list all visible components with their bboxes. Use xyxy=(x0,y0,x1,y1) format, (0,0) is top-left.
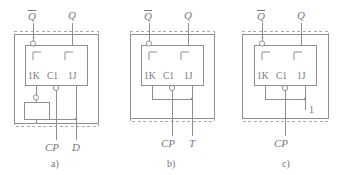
panel-a: Q Q 1K C1 1J CP D a) xyxy=(0,0,118,175)
qbar-output-label-b: Q xyxy=(144,10,152,22)
pin-1j-label-b: 1J xyxy=(184,72,192,82)
pin-1k-label-c: 1K xyxy=(257,72,269,82)
clock-bubble-c xyxy=(282,85,287,90)
junction-t-b xyxy=(191,98,194,101)
corner-marker-left-c xyxy=(262,52,270,60)
pin-c1-label-a: C1 xyxy=(47,72,58,82)
clock-input-label-c: CP xyxy=(274,138,288,149)
qbar-output-label-c: Q xyxy=(257,10,265,22)
qbar-bubble-b xyxy=(146,41,151,46)
pin-1k-label-b: 1K xyxy=(144,72,156,82)
clock-input-label-b: CP xyxy=(161,138,175,149)
corner-marker-left-a xyxy=(33,52,41,60)
corner-marker-right-a xyxy=(65,52,73,60)
panel-caption-c: c) xyxy=(282,159,290,169)
clock-bubble-a xyxy=(53,85,58,90)
pin-1j-label-c: 1J xyxy=(297,72,305,82)
panel-c-schematic xyxy=(230,0,349,175)
q-output-label-a: Q xyxy=(68,10,76,21)
panel-caption-a: a) xyxy=(51,159,59,169)
inverter-bubble-a xyxy=(33,95,38,100)
corner-marker-left-b xyxy=(149,52,157,60)
corner-marker-right-b xyxy=(181,52,189,60)
pin-c1-label-b: C1 xyxy=(163,72,174,82)
q-output-label-c: Q xyxy=(297,10,305,21)
qbar-output-label-a: Q xyxy=(28,10,36,22)
data-input-label-a: D xyxy=(72,142,80,153)
toggle-input-label-b: T xyxy=(189,138,195,149)
qbar-bubble-c xyxy=(259,41,264,46)
pin-1j-label-a: 1J xyxy=(68,72,76,82)
clock-input-label-a: CP xyxy=(45,142,59,153)
pin-1k-label-a: 1K xyxy=(28,72,40,82)
q-output-label-b: Q xyxy=(184,10,192,21)
panel-caption-b: b) xyxy=(167,159,175,169)
figure-root: Q Q 1K C1 1J CP D a) xyxy=(0,0,349,175)
corner-marker-right-c xyxy=(294,52,302,60)
clock-bubble-b xyxy=(169,85,174,90)
logic-high-label-c: 1 xyxy=(309,105,314,115)
panel-b: Q Q 1K C1 1J CP T b) xyxy=(118,0,230,175)
inverter-block-a xyxy=(24,102,49,119)
junction-jk-c xyxy=(304,98,307,101)
pin-c1-label-c: C1 xyxy=(276,72,287,82)
junction-d-a xyxy=(75,118,78,121)
panel-c: Q Q 1K C1 1J 1 CP c) xyxy=(230,0,349,175)
